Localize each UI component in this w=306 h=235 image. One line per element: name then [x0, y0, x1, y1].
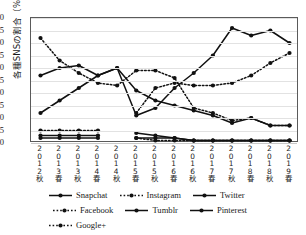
legend-item-tumblr[interactable]: Tumblr	[124, 206, 177, 215]
legend-row: FacebookTumblrPinterest	[30, 203, 298, 218]
data-point	[96, 81, 100, 85]
x-tick-label: 2014春	[90, 145, 104, 183]
data-point	[77, 71, 81, 75]
gridline	[31, 118, 297, 119]
x-tick-label: 2017秋	[224, 145, 238, 183]
data-point	[211, 83, 215, 87]
legend-label: Snapchat	[76, 191, 108, 200]
data-point	[230, 26, 234, 30]
y-tick-label: 10	[0, 113, 4, 122]
legend-key-icon	[124, 206, 149, 215]
y-tick-label: 0	[0, 138, 4, 147]
legend-item-twitter[interactable]: Twitter	[192, 191, 245, 200]
gridline	[31, 68, 297, 69]
data-point	[58, 98, 62, 102]
gridline	[31, 93, 297, 94]
y-tick-label: 45	[0, 26, 4, 35]
legend-label: Google+	[76, 221, 106, 230]
data-point	[211, 138, 215, 142]
data-point	[153, 98, 157, 102]
data-point	[230, 118, 234, 122]
x-tick-label: 2018春	[243, 145, 257, 183]
sns-share-line-chart: 各種SNSの割合（%） 05101520253035404550 2012秋20…	[0, 0, 306, 235]
data-point	[192, 71, 196, 75]
legend-label: Twitter	[220, 191, 245, 200]
y-tick-label: 35	[0, 51, 4, 60]
legend-item-googleplus[interactable]: Google+	[48, 221, 106, 230]
y-tick-label: 20	[0, 88, 4, 97]
series-line	[41, 38, 290, 126]
data-point	[153, 68, 157, 72]
data-point	[172, 76, 176, 80]
data-point	[268, 123, 272, 127]
data-point	[77, 86, 81, 90]
data-point	[134, 131, 138, 135]
legend-label: Pinterest	[217, 206, 247, 215]
data-point	[230, 81, 234, 85]
x-tick-label: 2017春	[205, 145, 219, 183]
legend-item-facebook[interactable]: Facebook	[52, 206, 113, 215]
data-point	[58, 58, 62, 62]
data-point	[153, 86, 157, 90]
data-point	[77, 63, 81, 67]
y-tick-label: 25	[0, 76, 4, 85]
legend-label: Facebook	[80, 206, 113, 215]
data-point	[134, 136, 138, 140]
data-point	[287, 123, 291, 127]
data-point	[134, 68, 138, 72]
data-point	[192, 83, 196, 87]
x-tick-label: 2015春	[128, 145, 142, 183]
data-point	[268, 61, 272, 65]
gridline	[31, 31, 297, 32]
legend-row: Google+	[30, 218, 298, 233]
data-point	[268, 138, 272, 142]
x-tick-label: 2018秋	[262, 145, 276, 183]
y-tick-label: 5	[0, 126, 4, 135]
y-tick-label: 50	[0, 13, 4, 22]
x-tick-label: 2019春	[282, 145, 296, 183]
y-tick-label: 40	[0, 38, 4, 47]
data-point	[96, 73, 100, 77]
data-point	[115, 83, 119, 87]
x-tick-label: 2013春	[52, 145, 66, 183]
legend-item-instagram[interactable]: Instagram	[119, 191, 181, 200]
data-point	[192, 138, 196, 142]
legend-label: Tumblr	[152, 206, 177, 215]
x-tick-label: 2015秋	[147, 145, 161, 183]
legend-item-snapchat[interactable]: Snapchat	[48, 191, 108, 200]
series-facebook	[38, 36, 291, 128]
legend-label: Instagram	[147, 191, 181, 200]
y-tick-label: 15	[0, 101, 4, 110]
data-point	[96, 136, 100, 140]
data-point	[287, 51, 291, 55]
data-point	[38, 73, 42, 77]
data-point	[249, 33, 253, 37]
gridline	[31, 81, 297, 82]
x-tick-label: 2014秋	[109, 145, 123, 183]
y-tick-label: 30	[0, 63, 4, 72]
data-point	[287, 138, 291, 142]
legend-key-icon	[52, 206, 77, 215]
data-point	[38, 136, 42, 140]
legend-key-icon	[119, 191, 144, 200]
legend-key-icon	[48, 221, 73, 230]
gridline	[31, 143, 297, 144]
plot-area	[30, 17, 298, 142]
data-point	[58, 136, 62, 140]
legend-item-pinterest[interactable]: Pinterest	[189, 206, 247, 215]
data-point	[230, 138, 234, 142]
gridline	[31, 131, 297, 132]
legend-key-icon	[48, 191, 73, 200]
x-tick-label: 2016秋	[186, 145, 200, 183]
data-point	[192, 106, 196, 110]
x-tick-label: 2012秋	[33, 145, 47, 183]
data-point	[134, 111, 138, 115]
x-tick-label: 2016春	[167, 145, 181, 183]
legend-key-icon	[192, 191, 217, 200]
legend-row: SnapchatInstagramTwitter	[30, 188, 298, 203]
data-point	[172, 86, 176, 90]
gridline	[31, 18, 297, 19]
data-point	[38, 111, 42, 115]
data-point	[172, 138, 176, 142]
data-point	[134, 88, 138, 92]
